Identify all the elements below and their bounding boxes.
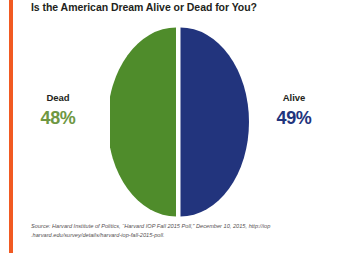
page-title: Is the American Dream Alive or Dead for … (31, 0, 331, 14)
slice-label-alive: Alive 49% (262, 93, 326, 127)
slice-label-dead-name: Dead (26, 93, 90, 103)
source-note-line-1: Source: Harvard Institute of Politics, “… (31, 222, 331, 231)
slice-label-dead: Dead 48% (26, 93, 90, 127)
slice-label-alive-name: Alive (262, 93, 326, 103)
pie-chart-figure: Is the American Dream Alive or Dead for … (0, 0, 347, 253)
orange-accent-bar (9, 0, 13, 253)
slice-label-dead-value: 48% (26, 109, 90, 127)
pie-slice-alive (181, 28, 250, 217)
source-note-line-2: .harvard.edu/survey/details/harvard-iop-… (31, 231, 331, 240)
source-note: Source: Harvard Institute of Politics, “… (31, 222, 331, 240)
pie-slice-dead (110, 28, 176, 217)
pie-chart-graphic (110, 26, 250, 218)
pie-svg (110, 26, 250, 218)
slice-label-alive-value: 49% (262, 109, 326, 127)
